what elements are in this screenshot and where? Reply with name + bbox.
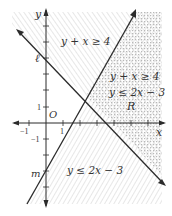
region-label-bottom: y ≤ 2x − 3 bbox=[66, 164, 123, 176]
y-tick-label-1: 1 bbox=[37, 103, 41, 112]
x-axis-left-arrow-icon bbox=[12, 121, 19, 126]
line-m-label: m bbox=[31, 168, 40, 179]
origin-label: O bbox=[49, 109, 57, 120]
inequality-graph: y x O 1 −1 1 −1 ℓ m y + x ≥ 4 y + x ≥ 4 … bbox=[0, 0, 172, 216]
region-label-top: y + x ≥ 4 bbox=[60, 35, 110, 47]
x-tick-label-1: 1 bbox=[60, 127, 64, 136]
line-l-label: ℓ bbox=[35, 52, 40, 65]
x-axis-right-arrow-icon bbox=[159, 121, 166, 126]
region-label-right-1: y + x ≥ 4 bbox=[109, 70, 159, 82]
x-tick-label-neg1: −1 bbox=[20, 127, 29, 136]
y-axis-label: y bbox=[34, 8, 42, 21]
region-label-right-2: y ≤ 2x − 3 bbox=[108, 86, 165, 98]
x-axis-label: x bbox=[156, 126, 163, 139]
y-tick-label-neg1: −1 bbox=[31, 135, 40, 144]
region-label-R: R bbox=[126, 100, 135, 113]
